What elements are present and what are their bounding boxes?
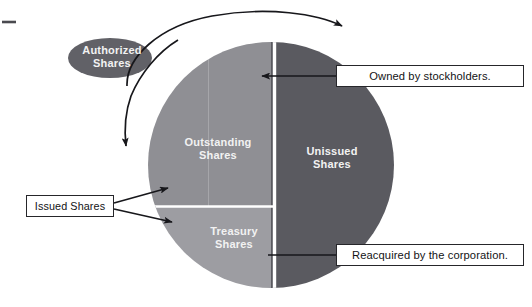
callout-issued-shares: Issued Shares: [26, 195, 114, 217]
authorized-shares-ellipse: [68, 38, 152, 78]
callout-owned-by-stockholders: Owned by stockholders.: [336, 65, 524, 87]
callout-reacquired-by-corporation: Reacquired by the corporation.: [336, 244, 524, 266]
